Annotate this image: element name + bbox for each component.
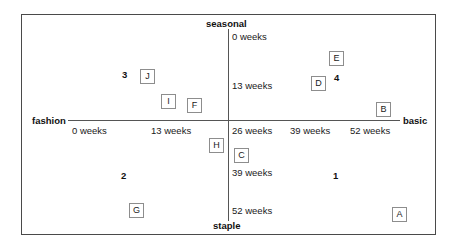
quadrant-label-2: 2 [121, 170, 126, 181]
axis-pole-staple: staple [213, 220, 240, 231]
tick-vertical-13-weeks: 13 weeks [232, 80, 272, 91]
tick-horizontal-13-weeks: 13 weeks [151, 125, 191, 136]
item-box-b[interactable]: B [376, 102, 391, 117]
axis-pole-basic: basic [403, 115, 427, 126]
quadrant-label-3: 3 [122, 69, 127, 80]
item-box-c[interactable]: C [234, 148, 249, 163]
item-box-e[interactable]: E [329, 51, 344, 66]
item-box-j[interactable]: J [140, 69, 155, 84]
item-box-i[interactable]: I [161, 94, 176, 109]
vertical-axis-line [228, 29, 229, 221]
quadrant-label-1: 1 [333, 170, 338, 181]
tick-horizontal-0-weeks: 0 weeks [72, 125, 107, 136]
tick-vertical-52-weeks: 52 weeks [232, 205, 272, 216]
tick-horizontal-39-weeks: 39 weeks [290, 125, 330, 136]
chart-canvas: seasonal staple fashion basic 0 weeks 13… [0, 0, 456, 249]
horizontal-axis-line [68, 120, 400, 121]
tick-horizontal-26-weeks: 26 weeks [232, 125, 272, 136]
item-box-h[interactable]: H [209, 138, 224, 153]
item-box-g[interactable]: G [129, 203, 144, 218]
quadrant-label-4: 4 [334, 72, 339, 83]
item-box-d[interactable]: D [311, 76, 326, 91]
axis-pole-seasonal: seasonal [206, 18, 247, 29]
item-box-a[interactable]: A [392, 207, 407, 222]
tick-vertical-39-weeks: 39 weeks [232, 167, 272, 178]
tick-horizontal-52-weeks: 52 weeks [350, 125, 390, 136]
chart-frame: seasonal staple fashion basic 0 weeks 13… [21, 14, 436, 235]
item-box-f[interactable]: F [187, 98, 202, 113]
tick-vertical-0-weeks: 0 weeks [232, 31, 267, 42]
axis-pole-fashion: fashion [32, 115, 66, 126]
